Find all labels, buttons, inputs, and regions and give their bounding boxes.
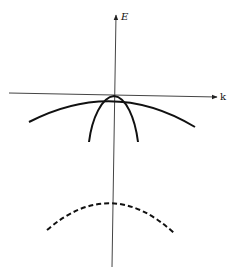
e-axis-label: E (120, 11, 129, 22)
dashed-band-curve (47, 203, 174, 233)
band-structure-diagram: E k (0, 0, 227, 270)
e-axis (112, 15, 116, 267)
k-axis-label: k (220, 91, 227, 102)
wide-band-curve (29, 101, 195, 127)
